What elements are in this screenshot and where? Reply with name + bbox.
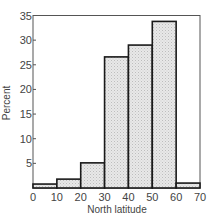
y-axis-label: Percent [1, 86, 12, 121]
y-tick-label: 20 [20, 83, 32, 95]
histogram-bar [33, 184, 57, 188]
x-axis-ticks: 010203040506070 [30, 191, 206, 203]
histogram-chart: 5101520253035 010203040506070 North lati… [0, 0, 211, 219]
x-tick-label: 70 [194, 191, 206, 203]
histogram-bar [105, 57, 129, 188]
y-axis-ticks: 5101520253035 [20, 10, 36, 170]
y-tick-label: 25 [20, 59, 32, 71]
histogram-bar [81, 163, 105, 188]
histogram-bar [128, 45, 152, 188]
x-tick-label: 10 [51, 191, 63, 203]
histogram-bar [152, 21, 176, 188]
x-axis-label: North latitude [87, 204, 147, 215]
y-tick-label: 35 [20, 10, 32, 22]
bars-group [33, 21, 200, 188]
x-tick-label: 40 [122, 191, 134, 203]
y-tick-label: 15 [20, 108, 32, 120]
x-tick-label: 0 [30, 191, 36, 203]
x-tick-label: 50 [146, 191, 158, 203]
y-tick-label: 5 [26, 157, 32, 169]
y-tick-label: 30 [20, 34, 32, 46]
x-tick-label: 30 [98, 191, 110, 203]
y-tick-label: 10 [20, 133, 32, 145]
x-tick-label: 60 [170, 191, 182, 203]
x-tick-label: 20 [75, 191, 87, 203]
histogram-bar [176, 183, 200, 188]
histogram-bar [57, 179, 81, 188]
